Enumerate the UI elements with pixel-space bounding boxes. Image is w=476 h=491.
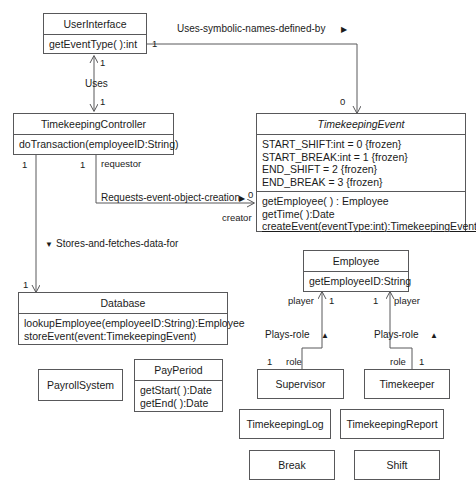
edge-label-stores-and-fetches-data-for: Stores-and-fetches-data-for — [56, 238, 178, 249]
operations-timekeeping-event: getEmployee( ) : Employee getTime( ):Dat… — [257, 191, 465, 236]
class-shift[interactable]: Shift — [354, 450, 440, 480]
edge-label-uses: Uses — [85, 78, 108, 89]
multiplicity-role-timekeeper: 1 — [419, 357, 424, 367]
class-name-break: Break — [250, 455, 334, 475]
navigation-arrow-uses-symbolic-names: ▶ — [341, 26, 347, 34]
class-supervisor[interactable]: Supervisor — [257, 369, 344, 399]
class-pay-period[interactable]: PayPeriod getStart( ):Date getEnd( ):Dat… — [134, 359, 223, 412]
class-user-interface[interactable]: UserInterface getEventType( ):int — [43, 13, 147, 54]
class-name-shift: Shift — [355, 455, 439, 475]
navigation-arrow-plays-role-supervisor: ▲ — [321, 332, 329, 340]
multiplicity-uses-symbolic-names-source: 1 — [152, 39, 157, 49]
class-name-pay-period: PayPeriod — [135, 360, 222, 380]
multiplicity-uses-bottom: 1 — [100, 97, 105, 107]
class-name-database: Database — [19, 293, 227, 313]
edge-label-uses-symbolic-names: Uses-symbolic-names-defined-by — [177, 23, 325, 34]
operations-pay-period: getStart( ):Date getEnd( ):Date — [135, 380, 222, 412]
class-name-timekeeping-report: TimekeepingReport — [341, 414, 443, 434]
attributes-timekeeping-event: START_SHIFT:int = 0 {frozen} START_BREAK… — [257, 134, 465, 191]
class-name-payroll-system: PayrollSystem — [39, 375, 122, 395]
role-label-creator: creator — [222, 213, 252, 223]
role-label-player-timekeeper: player — [394, 296, 420, 306]
role-label-role-timekeeper: role — [390, 357, 406, 367]
class-name-timekeeping-log: TimekeepingLog — [240, 414, 330, 434]
navigation-arrow-plays-role-timekeeper: ▲ — [430, 332, 438, 340]
class-break[interactable]: Break — [249, 450, 335, 480]
class-name-timekeeping-event: TimekeepingEvent — [257, 114, 465, 134]
navigation-arrow-requests-event-object-creation: ▶ — [239, 195, 245, 203]
multiplicity-requests-target: 0 — [248, 190, 253, 200]
static-operation-create-event: createEvent(eventType:int):TimekeepingEv… — [262, 220, 460, 233]
role-label-role-supervisor: role — [286, 357, 302, 367]
class-timekeeping-controller[interactable]: TimekeepingController doTransaction(empl… — [13, 113, 174, 155]
multiplicity-stores-source: 1 — [22, 160, 27, 170]
multiplicity-uses-symbolic-names-target: 0 — [340, 97, 345, 107]
edge-uses-symbolic-names — [147, 44, 357, 113]
class-name-user-interface: UserInterface — [44, 14, 146, 34]
navigation-arrow-stores-and-fetches: ▼ — [45, 241, 53, 249]
class-database[interactable]: Database lookupEmployee(employeeID:Strin… — [18, 292, 228, 345]
edge-label-plays-role-timekeeper: Plays-role — [374, 329, 418, 340]
class-payroll-system[interactable]: PayrollSystem — [38, 369, 123, 401]
edge-label-requests-event-object-creation: Requests-event-object-creation — [101, 192, 240, 203]
role-label-requestor: requestor — [101, 159, 141, 169]
class-timekeeping-event[interactable]: TimekeepingEvent START_SHIFT:int = 0 {fr… — [256, 113, 466, 232]
class-name-timekeeping-controller: TimekeepingController — [14, 114, 173, 134]
operations-employee: getEmployeeID:String — [304, 271, 408, 291]
class-employee[interactable]: Employee getEmployeeID:String — [303, 250, 409, 292]
multiplicity-player-timekeeper: 1 — [373, 296, 378, 306]
multiplicity-role-supervisor: 1 — [267, 357, 272, 367]
class-timekeeping-log[interactable]: TimekeepingLog — [239, 409, 331, 439]
class-name-employee: Employee — [304, 251, 408, 271]
class-name-timekeeper: Timekeeper — [365, 374, 449, 394]
edge-label-plays-role-supervisor: Plays-role — [265, 329, 309, 340]
multiplicity-uses-top: 1 — [100, 58, 105, 68]
operations-user-interface: getEventType( ):int — [44, 34, 146, 54]
operations-database: lookupEmployee(employeeID:String):Employ… — [19, 313, 227, 345]
class-name-supervisor: Supervisor — [258, 374, 343, 394]
uml-class-diagram-canvas: UserInterface getEventType( ):int Timeke… — [0, 0, 476, 491]
multiplicity-stores-target: 1 — [23, 280, 28, 290]
class-timekeeper[interactable]: Timekeeper — [364, 369, 450, 399]
role-label-player-supervisor: player — [288, 296, 314, 306]
multiplicity-requests-source: 1 — [80, 160, 85, 170]
multiplicity-player-supervisor: 1 — [329, 296, 334, 306]
class-timekeeping-report[interactable]: TimekeepingReport — [340, 409, 444, 439]
operations-timekeeping-controller: doTransaction(employeeID:String) — [14, 134, 173, 154]
